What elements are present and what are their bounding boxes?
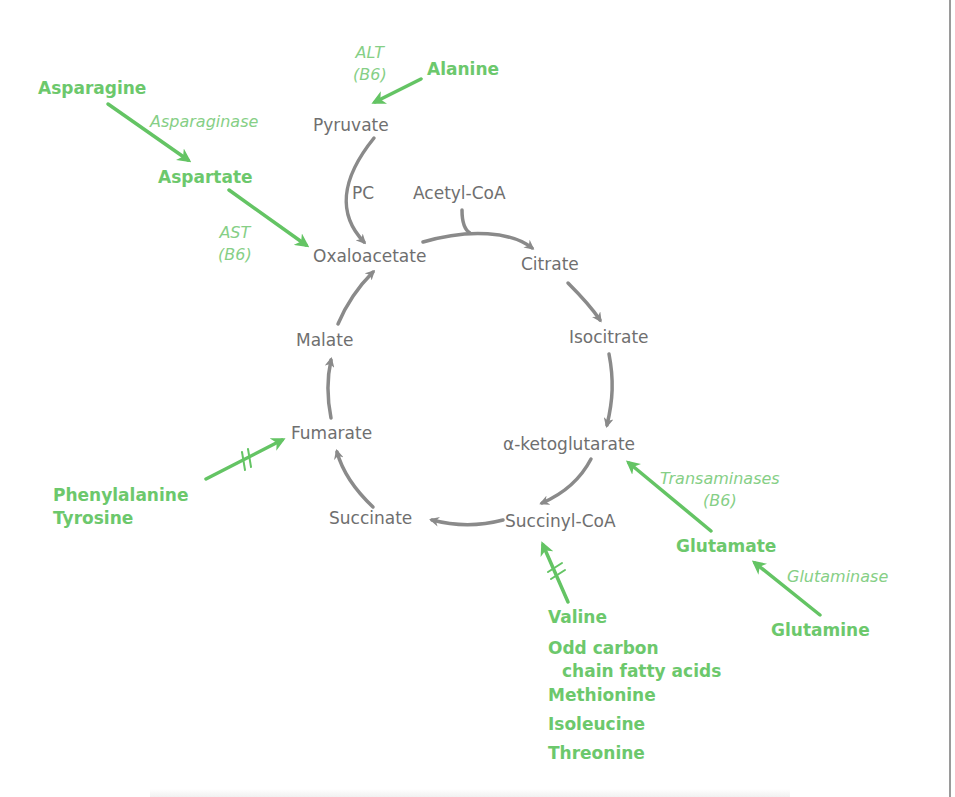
- metabolite-pyruvate: Pyruvate: [313, 117, 389, 134]
- arrow-citrate-to-isocitrate: [568, 283, 600, 320]
- metabolite-acetyl-coa: Acetyl-CoA: [413, 185, 506, 202]
- amino-acid-alanine: Alanine: [427, 61, 499, 78]
- arrow-succinyl-coa-to-succinate: [432, 520, 503, 525]
- frame-right-border: [949, 0, 951, 797]
- enzyme-label-pc: PC: [352, 185, 374, 202]
- amino-acid-glutamate: Glutamate: [676, 538, 776, 555]
- arrow-oxaloacetate-to-citrate: [423, 233, 532, 248]
- amino-acid-aspartate: Aspartate: [158, 169, 253, 186]
- caption-cutoff: [150, 789, 790, 797]
- tca-cycle-diagram: Pyruvate PC Acetyl-CoA Oxaloacetate Citr…: [0, 0, 955, 797]
- enzyme-ast: AST (B6): [218, 222, 252, 266]
- enzyme-ast-cofactor: (B6): [218, 244, 252, 266]
- source-odd-chain-fatty-acids: Odd carbon chain fatty acids: [548, 637, 721, 683]
- arrow-succinate-to-fumarate: [337, 452, 373, 507]
- metabolite-alpha-ketoglutarate: α-ketoglutarate: [503, 436, 635, 453]
- metabolite-oxaloacetate: Oxaloacetate: [313, 248, 426, 265]
- arrow-fumarate-to-malate: [328, 360, 331, 418]
- enzyme-transaminases-name: Transaminases: [660, 468, 780, 490]
- metabolite-fumarate: Fumarate: [291, 425, 372, 442]
- enzyme-asparaginase: Asparaginase: [150, 114, 258, 130]
- enzyme-alt-name: ALT: [353, 42, 387, 64]
- arrow-acetyl-coa-join: [462, 210, 470, 233]
- amino-acid-tyrosine: Tyrosine: [53, 507, 188, 530]
- source-valine: Valine: [548, 609, 607, 626]
- amino-acid-asparagine: Asparagine: [38, 80, 146, 97]
- metabolite-malate: Malate: [296, 332, 353, 349]
- enzyme-alt-cofactor: (B6): [353, 64, 387, 86]
- metabolite-isocitrate: Isocitrate: [569, 329, 649, 346]
- enzyme-alt: ALT (B6): [353, 42, 387, 86]
- metabolite-succinate: Succinate: [329, 510, 412, 527]
- amino-acid-phenylalanine: Phenylalanine: [53, 484, 188, 507]
- source-methionine: Methionine: [548, 687, 656, 704]
- metabolite-succinyl-coa: Succinyl-CoA: [505, 513, 616, 530]
- arrow-layer: [0, 0, 955, 797]
- amino-acid-group-aromatic: Phenylalanine Tyrosine: [53, 484, 188, 530]
- source-odd-chain-line1: Odd carbon: [548, 637, 721, 660]
- amino-acid-glutamine: Glutamine: [771, 622, 870, 639]
- enzyme-transaminases-cofactor: (B6): [660, 490, 780, 512]
- source-isoleucine: Isoleucine: [548, 716, 645, 733]
- enzyme-glutaminase: Glutaminase: [787, 569, 888, 585]
- source-threonine: Threonine: [548, 745, 645, 762]
- enzyme-transaminases: Transaminases (B6): [660, 468, 780, 512]
- arrow-isocitrate-to-alpha-kg: [607, 354, 612, 425]
- arrow-malate-to-oxaloacetate: [338, 272, 373, 324]
- metabolite-citrate: Citrate: [521, 256, 579, 273]
- arrow-alpha-kg-to-succinyl-coa: [542, 459, 591, 503]
- source-odd-chain-line2: chain fatty acids: [548, 660, 721, 683]
- arrow-succinyl-sources-to-succinyl-coa: [543, 545, 568, 602]
- enzyme-ast-name: AST: [218, 222, 252, 244]
